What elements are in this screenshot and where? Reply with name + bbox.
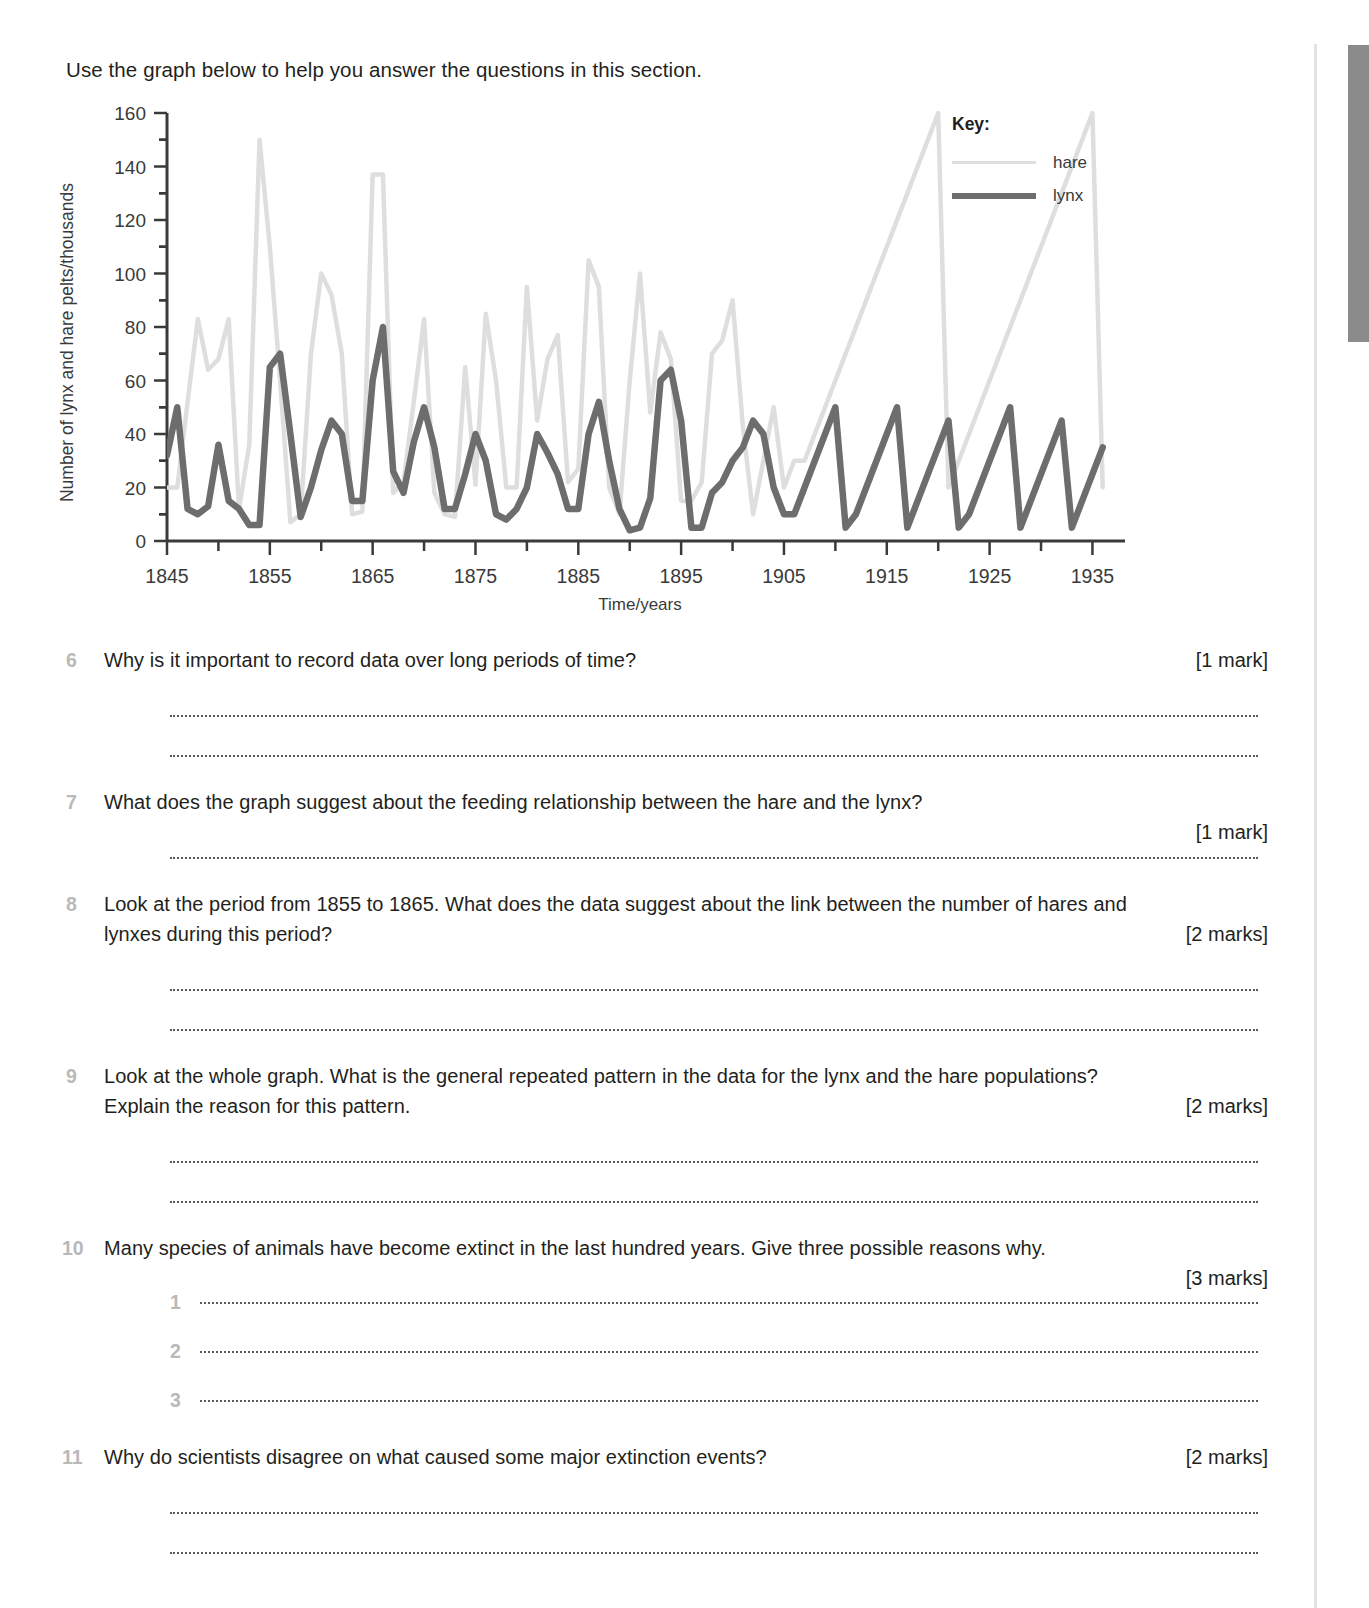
x-tick-label: 1845 — [145, 565, 189, 587]
answer-sub-number: 2 — [170, 1340, 200, 1363]
y-tick-label: 40 — [125, 424, 146, 445]
question-8: 8Look at the period from 1855 to 1865. W… — [0, 889, 1310, 1061]
question-marks: [1 mark] — [1196, 817, 1268, 847]
answer-sub-number: 3 — [170, 1389, 200, 1412]
answer-sub-item: 3 — [170, 1389, 1258, 1412]
y-tick-label: 100 — [114, 264, 146, 285]
x-tick-label: 1865 — [351, 565, 395, 587]
x-tick-label: 1935 — [1071, 565, 1115, 587]
question-9: 9Look at the whole graph. What is the ge… — [0, 1061, 1310, 1233]
legend-title: Key: — [952, 114, 1087, 135]
answer-sub-item: 1 — [170, 1291, 1258, 1314]
y-tick-label: 140 — [114, 157, 146, 178]
question-10: 10Many species of animals have become ex… — [0, 1233, 1310, 1442]
population-chart: Number of lynx and hare pelts/thousands … — [0, 96, 1200, 636]
y-tick-label: 20 — [125, 478, 146, 499]
question-text: Look at the period from 1855 to 1865. Wh… — [104, 889, 1134, 949]
legend-label-hare: hare — [1053, 153, 1087, 173]
intro-instruction: Use the graph below to help you answer t… — [66, 56, 702, 84]
x-tick-label: 1895 — [659, 565, 703, 587]
x-tick-label: 1855 — [248, 565, 292, 587]
question-marks: [1 mark] — [1196, 645, 1268, 675]
question-text: Why do scientists disagree on what cause… — [104, 1442, 1134, 1472]
question-marks: [2 marks] — [1186, 919, 1268, 949]
x-tick-label: 1875 — [454, 565, 498, 587]
page-section-tab — [1348, 45, 1369, 342]
answer-sub-number: 1 — [170, 1291, 200, 1314]
question-7: 7What does the graph suggest about the f… — [0, 787, 1310, 889]
question-number: 6 — [66, 645, 100, 675]
question-text: Look at the whole graph. What is the gen… — [104, 1061, 1134, 1121]
x-tick-label: 1905 — [762, 565, 806, 587]
page-edge-line — [1314, 44, 1317, 1608]
question-text: What does the graph suggest about the fe… — [104, 787, 1134, 817]
question-number: 10 — [62, 1233, 100, 1263]
question-text: Many species of animals have become exti… — [104, 1233, 1134, 1263]
legend-item-hare: hare — [952, 146, 1087, 179]
legend-swatch-lynx-icon — [952, 193, 1036, 199]
y-tick-label: 120 — [114, 210, 146, 231]
question-marks: [2 marks] — [1186, 1442, 1268, 1472]
answer-line[interactable] — [200, 1400, 1258, 1402]
legend-item-lynx: lynx — [952, 179, 1087, 212]
question-11: 11Why do scientists disagree on what cau… — [0, 1442, 1310, 1584]
chart-legend: Key: hare lynx — [952, 114, 1087, 212]
answer-line[interactable] — [200, 1302, 1258, 1304]
question-number: 11 — [62, 1442, 100, 1472]
question-marks: [2 marks] — [1186, 1091, 1268, 1121]
questions-list: 6Why is it important to record data over… — [0, 645, 1310, 1584]
x-tick-label: 1925 — [968, 565, 1012, 587]
question-number: 7 — [66, 787, 100, 817]
legend-swatch-hare-icon — [952, 161, 1036, 164]
x-axis-title: Time/years — [167, 595, 1113, 615]
x-tick-label: 1885 — [557, 565, 601, 587]
question-text: Why is it important to record data over … — [104, 645, 1134, 675]
y-tick-label: 160 — [114, 103, 146, 124]
question-6: 6Why is it important to record data over… — [0, 645, 1310, 787]
question-number: 8 — [66, 889, 100, 919]
y-tick-label: 80 — [125, 317, 146, 338]
y-tick-label: 0 — [135, 531, 146, 552]
x-tick-label: 1915 — [865, 565, 909, 587]
answer-line[interactable] — [200, 1351, 1258, 1353]
question-marks: [3 marks] — [1186, 1263, 1268, 1293]
legend-label-lynx: lynx — [1053, 186, 1083, 206]
answer-sub-item: 2 — [170, 1340, 1258, 1363]
question-number: 9 — [66, 1061, 100, 1091]
y-tick-label: 60 — [125, 371, 146, 392]
